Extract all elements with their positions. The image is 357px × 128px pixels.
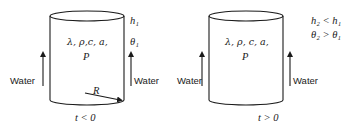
right-water-label-left: Water — [177, 75, 202, 86]
left-properties-label: λ, ρ,c, a, — [66, 36, 108, 47]
left-water-label-left: Water — [10, 75, 35, 86]
right-time-label: t > 0 — [258, 112, 279, 123]
left-power-label: P — [82, 51, 90, 62]
radius-label: R — [92, 85, 100, 96]
left-temp-label: θ₁ — [130, 36, 139, 47]
right-water-label-right: Water — [293, 75, 318, 86]
right-properties-label: λ, ρ, c, a, — [224, 36, 269, 47]
right-level-label: h₂ < h₁ — [311, 15, 341, 26]
left-cylinder-top — [50, 11, 124, 21]
right-temp-label: θ₂ > θ₁ — [311, 29, 341, 40]
right-cylinder-top — [209, 11, 283, 21]
right-power-label: P — [241, 51, 249, 62]
left-level-label: h₁ — [130, 15, 139, 26]
left-cylinder-bottom — [50, 100, 124, 105]
diagram-canvas: λ, ρ,c, a, P h₁ θ₁ R t < 0 Water Water λ… — [0, 0, 357, 128]
left-time-label: t < 0 — [75, 112, 96, 123]
left-water-label-right: Water — [134, 75, 159, 86]
radius-arrow — [85, 93, 120, 100]
right-cylinder-bottom — [209, 100, 283, 105]
